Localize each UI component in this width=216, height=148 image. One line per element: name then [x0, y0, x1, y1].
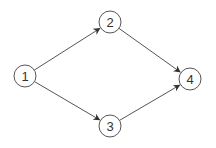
nodes-group: 1234: [14, 11, 201, 137]
node-4: 4: [179, 68, 201, 90]
node-label: 1: [21, 69, 28, 84]
node-1: 1: [14, 65, 36, 87]
edge-1-to-2: [34, 28, 100, 70]
edge-3-to-4: [120, 85, 180, 120]
node-label: 4: [186, 72, 193, 87]
node-label: 2: [106, 15, 113, 30]
edge-2-to-4: [119, 28, 180, 72]
diagram-canvas: 1234: [0, 0, 216, 148]
edge-1-to-3: [35, 82, 100, 120]
edges-group: [34, 28, 180, 120]
node-2: 2: [99, 11, 121, 33]
graph-svg: 1234: [0, 0, 216, 148]
node-label: 3: [106, 119, 113, 134]
node-3: 3: [99, 115, 121, 137]
